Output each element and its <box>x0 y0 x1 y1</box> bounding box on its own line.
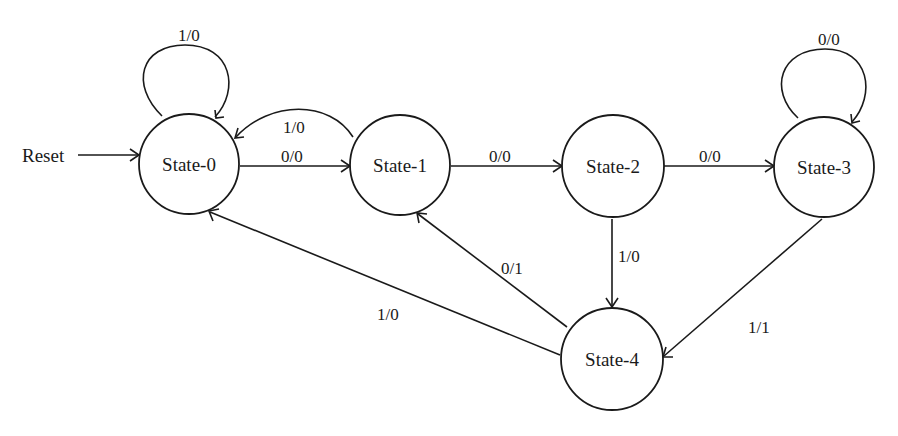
state-label: State-4 <box>585 349 639 370</box>
label-s4-s1: 0/1 <box>501 259 523 278</box>
transition-s1-s0: 1/0 <box>235 109 353 138</box>
transition-s0-s1: 0/0 <box>240 147 350 172</box>
label-s0-s0: 1/0 <box>178 26 200 45</box>
transition-s2-s4: 1/0 <box>606 219 640 307</box>
reset-arrow: Reset <box>22 145 139 166</box>
state-label: State-3 <box>797 157 851 178</box>
label-s0-s1: 0/0 <box>281 147 303 166</box>
label-s2-s3: 0/0 <box>699 147 721 166</box>
label-s2-s4: 1/0 <box>618 247 640 266</box>
state-label: State-0 <box>162 154 216 175</box>
reset-label: Reset <box>22 145 65 166</box>
transition-s0-s0: 1/0 <box>143 26 229 118</box>
state-diagram: Reset 1/0 1/0 0/0 0/0 0/0 0/0 1/ <box>0 0 898 436</box>
state-node-2: State-2 <box>562 115 664 217</box>
label-s1-s0: 1/0 <box>283 118 305 137</box>
state-node-1: State-1 <box>350 115 450 215</box>
label-s3-s3: 0/0 <box>818 30 840 49</box>
label-s1-s2: 0/0 <box>489 147 511 166</box>
state-node-4: State-4 <box>561 308 663 410</box>
transition-s3-s4: 1/1 <box>663 219 822 357</box>
state-label: State-1 <box>373 155 427 176</box>
state-node-3: State-3 <box>774 117 874 217</box>
state-node-0: State-0 <box>139 114 239 214</box>
state-label: State-2 <box>586 156 640 177</box>
label-s3-s4: 1/1 <box>748 318 770 337</box>
label-s4-s0: 1/0 <box>377 305 399 324</box>
transition-s4-s1: 0/1 <box>417 213 567 327</box>
transition-s3-s3: 0/0 <box>781 30 865 123</box>
transition-s2-s3: 0/0 <box>664 147 774 172</box>
transition-s1-s2: 0/0 <box>451 147 562 172</box>
